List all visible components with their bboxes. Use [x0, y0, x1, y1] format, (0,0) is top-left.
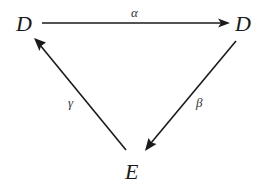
edge-alpha: α	[42, 5, 230, 28]
edge-beta-arrowhead	[145, 138, 157, 151]
edge-beta-label: β	[195, 95, 203, 110]
edge-gamma: γ	[34, 38, 126, 150]
edge-beta-line	[151, 41, 236, 143]
node-e-bottom: E	[124, 159, 139, 184]
edge-alpha-label: α	[131, 5, 139, 20]
edge-beta: β	[145, 41, 236, 151]
node-d-left: D	[15, 11, 32, 36]
edge-gamma-label: γ	[68, 95, 74, 110]
commutative-diagram: α β γ D D E	[0, 0, 264, 185]
node-d-right: D	[234, 11, 251, 36]
edge-gamma-line	[40, 45, 126, 150]
